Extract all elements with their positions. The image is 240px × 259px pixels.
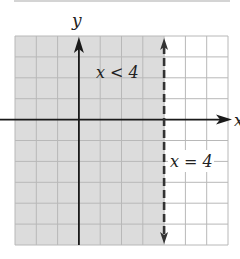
region-label: x < 4 xyxy=(96,63,139,82)
inequality-graph: y x x < 4 x = 4 xyxy=(0,0,240,259)
boundary-label: x = 4 xyxy=(170,152,213,171)
y-axis-label: y xyxy=(71,10,82,30)
x-axis-label: x xyxy=(234,110,240,130)
